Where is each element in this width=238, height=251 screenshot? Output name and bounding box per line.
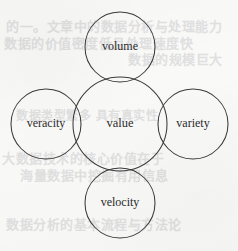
label-group: volumeveracityvaluevarietyvelocity [27,39,210,209]
venn-label-volume: volume [102,39,138,53]
venn-label-value: value [106,116,134,130]
venn-label-velocity: velocity [101,195,140,209]
scanned-page: 的一。文章中的数据分析与处理能力数据的价值密度低且处理速度快数据的规模巨大数据类… [0,0,238,251]
venn-label-veracity: veracity [27,116,66,130]
venn-label-variety: variety [176,116,209,130]
five-vs-venn-diagram: volumeveracityvaluevarietyvelocity [0,0,238,251]
